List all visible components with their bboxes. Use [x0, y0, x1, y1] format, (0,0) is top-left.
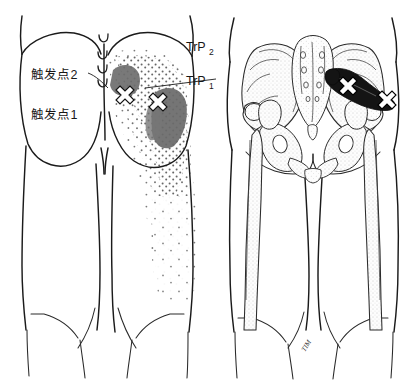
figure-canvas: 触发点2 触发点1 TrP 2 TrP 1 — [0, 0, 415, 383]
anatomy-figure: 触发点2 触发点1 TrP 2 TrP 1 — [0, 0, 415, 383]
label-trp1: TrP 1 — [186, 74, 214, 91]
sacrum — [292, 36, 333, 141]
coccyx — [308, 125, 317, 140]
sacral-marks — [98, 34, 108, 87]
ischium-left — [259, 122, 310, 178]
label-trp2-text: TrP — [186, 40, 206, 54]
label-trp1-text: TrP — [186, 74, 206, 88]
ischium-right — [315, 122, 366, 178]
left-panel: 触发点2 触发点1 TrP 2 TrP 1 — [20, 16, 216, 378]
right-panel: TIM — [227, 18, 399, 379]
label-trigger-point-1: 触发点1 — [31, 107, 78, 122]
label-trp1-subscript: 1 — [209, 81, 214, 91]
piriformis-origin — [325, 69, 339, 85]
pubic-symphysis — [305, 169, 321, 184]
label-trigger-point-2: 触发点2 — [31, 67, 78, 82]
artist-signature: TIM — [300, 338, 314, 353]
label-trp2: TrP 2 — [186, 40, 214, 57]
greater-trochanter-left — [259, 100, 282, 129]
label-trp2-subscript: 2 — [209, 47, 214, 57]
